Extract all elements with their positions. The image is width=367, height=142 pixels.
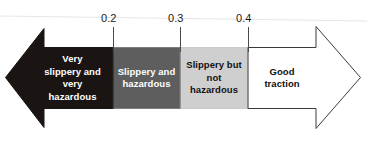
zone-label-good-traction: Good traction	[248, 47, 316, 109]
tick-label-0-3: 0.3	[168, 12, 184, 24]
zone-label-slippery-hazardous: Slippery and hazardous	[113, 47, 180, 109]
zone-label-slippery-not-hazardous: Slippery but not hazardous	[180, 47, 248, 109]
zone-label-very-slippery: Very slippery and very hazardous	[32, 47, 113, 109]
tick-label-0-2: 0.2	[101, 12, 117, 24]
figure-canvas: 0.2 0.3 0.4 Very slippery and very hazar…	[0, 0, 367, 142]
tick-label-0-4: 0.4	[236, 12, 252, 24]
